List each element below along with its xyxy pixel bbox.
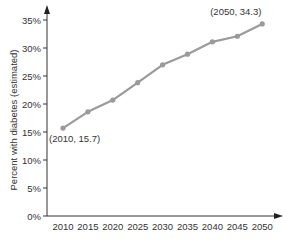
x-axis-arrow-icon	[274, 213, 283, 219]
y-axis-arrow-icon	[44, 5, 50, 14]
data-point	[160, 62, 165, 67]
x-tick-label: 2030	[152, 221, 173, 232]
data-point	[235, 34, 240, 39]
series-line	[63, 24, 262, 128]
data-point	[260, 21, 265, 26]
y-tick-label: 35%	[22, 15, 42, 26]
y-tick-label: 25%	[22, 71, 42, 82]
annotation-end: (2050, 34.3)	[210, 6, 261, 17]
x-tick-label: 2050	[252, 221, 273, 232]
data-point	[85, 109, 90, 114]
x-tick-label: 2015	[77, 221, 98, 232]
x-tick-label: 2020	[102, 221, 123, 232]
y-tick-label: 15%	[22, 127, 42, 138]
y-tick-label: 5%	[27, 183, 41, 194]
y-tick-label: 20%	[22, 99, 42, 110]
y-tick-label: 10%	[22, 155, 42, 166]
data-point	[110, 97, 115, 102]
axes	[44, 5, 283, 219]
y-axis-title: Percent with diabetes (estimated)	[8, 50, 19, 191]
data-point	[60, 125, 65, 130]
data-point	[210, 39, 215, 44]
x-tick-label: 2040	[202, 221, 223, 232]
y-axis-ticks: 0%5%10%15%20%25%30%35%	[22, 15, 47, 222]
annotation-start: (2010, 15.7)	[49, 133, 100, 144]
data-point	[185, 52, 190, 57]
x-tick-label: 2010	[52, 221, 73, 232]
x-tick-label: 2045	[227, 221, 248, 232]
y-tick-label: 30%	[22, 43, 42, 54]
x-tick-label: 2025	[127, 221, 148, 232]
diabetes-line-chart: Percent with diabetes (estimated) 0%5%10…	[0, 0, 283, 240]
y-axis-title-group: Percent with diabetes (estimated)	[8, 50, 19, 191]
data-point	[135, 80, 140, 85]
y-tick-label: 0%	[27, 211, 41, 222]
x-tick-label: 2035	[177, 221, 198, 232]
x-axis-ticks: 201020152020202520302035204020452050	[52, 221, 272, 232]
